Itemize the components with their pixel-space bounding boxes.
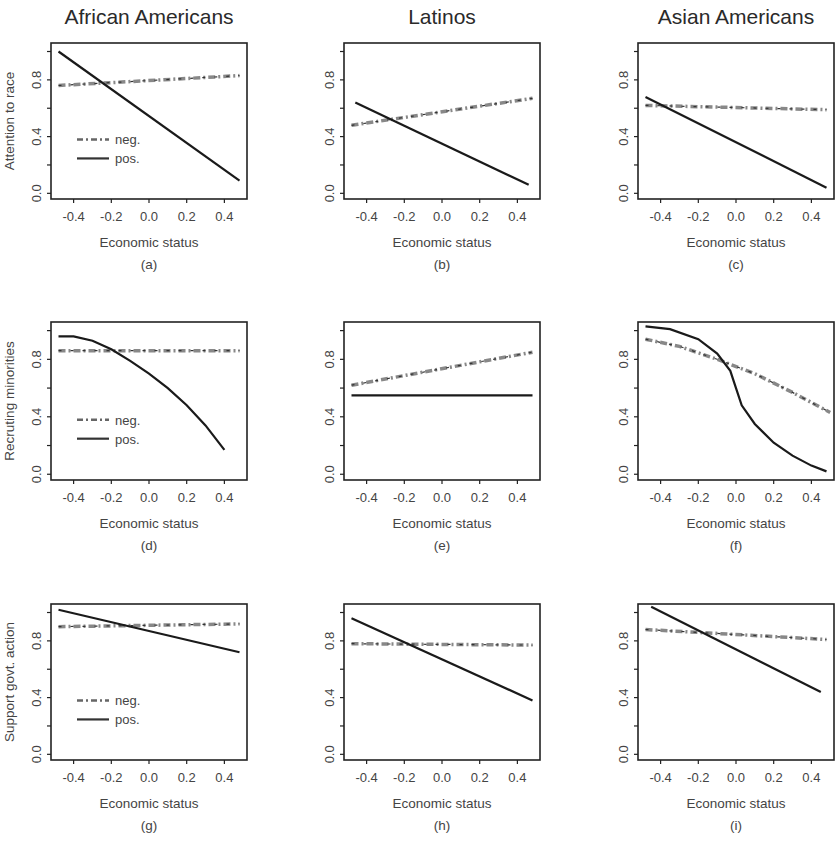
x-tick-label: -0.2 bbox=[100, 770, 122, 785]
x-tick-label: 0.2 bbox=[178, 770, 196, 785]
y-tick-label: 0.8 bbox=[29, 632, 44, 650]
x-axis-label: Economic status bbox=[686, 796, 785, 811]
x-axis-label: Economic status bbox=[392, 235, 491, 250]
x-axis-label: Economic status bbox=[99, 796, 198, 811]
x-tick-label: -0.2 bbox=[687, 209, 709, 224]
x-tick-label: 0.4 bbox=[508, 490, 526, 505]
y-axis-label: Recruting minorities bbox=[2, 341, 17, 461]
x-axis-label: Economic status bbox=[686, 235, 785, 250]
plot-frame bbox=[638, 322, 834, 480]
x-axis-label: Economic status bbox=[392, 516, 491, 531]
x-tick-label: -0.4 bbox=[62, 209, 84, 224]
y-tick-label: 0.4 bbox=[616, 408, 631, 426]
series-neg-line bbox=[352, 98, 533, 125]
x-tick-label: 0.0 bbox=[140, 209, 158, 224]
x-tick-label: 0.2 bbox=[471, 490, 489, 505]
x-axis-label: Economic status bbox=[392, 796, 491, 811]
y-tick-label: 0.8 bbox=[322, 350, 337, 368]
y-tick-label: 0.4 bbox=[616, 128, 631, 146]
column-title-latinos: Latinos bbox=[408, 5, 476, 28]
plot-frame bbox=[638, 604, 834, 760]
column-title-asian-americans: Asian Americans bbox=[658, 5, 814, 28]
series-neg-line bbox=[59, 624, 240, 627]
panel-label: (f) bbox=[730, 538, 743, 553]
y-tick-label: 0.0 bbox=[322, 745, 337, 763]
y-tick-label: 0.8 bbox=[322, 632, 337, 650]
series-neg-line bbox=[646, 339, 831, 412]
legend-neg-label: neg. bbox=[115, 132, 140, 147]
x-tick-label: -0.4 bbox=[649, 770, 671, 785]
x-tick-label: 0.4 bbox=[802, 209, 820, 224]
x-tick-label: -0.2 bbox=[687, 490, 709, 505]
x-tick-label: -0.2 bbox=[393, 490, 415, 505]
y-tick-label: 0.0 bbox=[322, 465, 337, 483]
panel-label: (g) bbox=[141, 818, 158, 833]
y-tick-label: 0.4 bbox=[322, 128, 337, 146]
panel-label: (i) bbox=[730, 818, 742, 833]
y-tick-label: 0.4 bbox=[29, 128, 44, 146]
x-tick-label: 0.0 bbox=[433, 490, 451, 505]
y-tick-label: 0.4 bbox=[29, 689, 44, 707]
x-tick-label: 0.4 bbox=[508, 770, 526, 785]
y-tick-label: 0.0 bbox=[616, 745, 631, 763]
panel-label: (b) bbox=[434, 257, 451, 272]
panel-label: (a) bbox=[141, 257, 158, 272]
y-tick-label: 0.0 bbox=[322, 184, 337, 202]
y-tick-label: 0.8 bbox=[616, 71, 631, 89]
x-tick-label: 0.2 bbox=[765, 490, 783, 505]
y-tick-label: 0.4 bbox=[29, 408, 44, 426]
x-tick-label: 0.0 bbox=[727, 490, 745, 505]
y-tick-label: 0.4 bbox=[322, 408, 337, 426]
panel-label: (h) bbox=[434, 818, 451, 833]
series-neg-line bbox=[352, 644, 533, 645]
x-tick-label: 0.4 bbox=[215, 209, 233, 224]
x-axis-label: Economic status bbox=[99, 235, 198, 250]
x-tick-label: 0.0 bbox=[433, 770, 451, 785]
x-tick-label: 0.0 bbox=[140, 770, 158, 785]
series-pos-line bbox=[352, 618, 533, 700]
y-tick-label: 0.8 bbox=[29, 350, 44, 368]
series-neg-line bbox=[59, 76, 240, 86]
x-tick-label: 0.2 bbox=[765, 770, 783, 785]
x-tick-label: 0.4 bbox=[508, 209, 526, 224]
series-neg-line bbox=[646, 630, 827, 640]
legend-neg-label: neg. bbox=[115, 413, 140, 428]
series-pos-line bbox=[646, 326, 827, 471]
series-neg-marks bbox=[646, 339, 831, 412]
legend-pos-label: pos. bbox=[115, 432, 140, 447]
series-pos-line bbox=[59, 610, 240, 653]
y-tick-label: 0.0 bbox=[616, 184, 631, 202]
panel-label: (d) bbox=[141, 538, 158, 553]
y-tick-label: 0.0 bbox=[29, 184, 44, 202]
x-tick-label: -0.2 bbox=[100, 490, 122, 505]
y-axis-label: Attention to race bbox=[2, 72, 17, 170]
x-tick-label: 0.2 bbox=[178, 490, 196, 505]
column-title-african-americans: African Americans bbox=[64, 5, 233, 28]
y-tick-label: 0.8 bbox=[616, 632, 631, 650]
series-pos-line bbox=[651, 607, 821, 692]
x-axis-label: Economic status bbox=[99, 516, 198, 531]
x-tick-label: -0.4 bbox=[62, 770, 84, 785]
x-tick-label: -0.4 bbox=[649, 490, 671, 505]
legend-neg-label: neg. bbox=[115, 693, 140, 708]
x-tick-label: -0.2 bbox=[393, 209, 415, 224]
y-tick-label: 0.4 bbox=[616, 689, 631, 707]
y-tick-label: 0.0 bbox=[616, 465, 631, 483]
plot-frame bbox=[344, 322, 540, 480]
x-tick-label: -0.2 bbox=[100, 209, 122, 224]
x-tick-label: -0.4 bbox=[355, 209, 377, 224]
series-pos-line bbox=[355, 103, 528, 185]
x-axis-label: Economic status bbox=[686, 516, 785, 531]
y-tick-label: 0.8 bbox=[322, 71, 337, 89]
x-tick-label: -0.4 bbox=[62, 490, 84, 505]
x-tick-label: 0.2 bbox=[178, 209, 196, 224]
panel-label: (e) bbox=[434, 538, 451, 553]
x-tick-label: -0.2 bbox=[687, 770, 709, 785]
y-tick-label: 0.0 bbox=[29, 465, 44, 483]
x-tick-label: 0.4 bbox=[215, 490, 233, 505]
series-neg-line bbox=[646, 105, 827, 109]
x-tick-label: 0.0 bbox=[727, 770, 745, 785]
series-pos-line bbox=[59, 52, 240, 181]
y-tick-label: 0.4 bbox=[322, 689, 337, 707]
legend-pos-label: pos. bbox=[115, 151, 140, 166]
